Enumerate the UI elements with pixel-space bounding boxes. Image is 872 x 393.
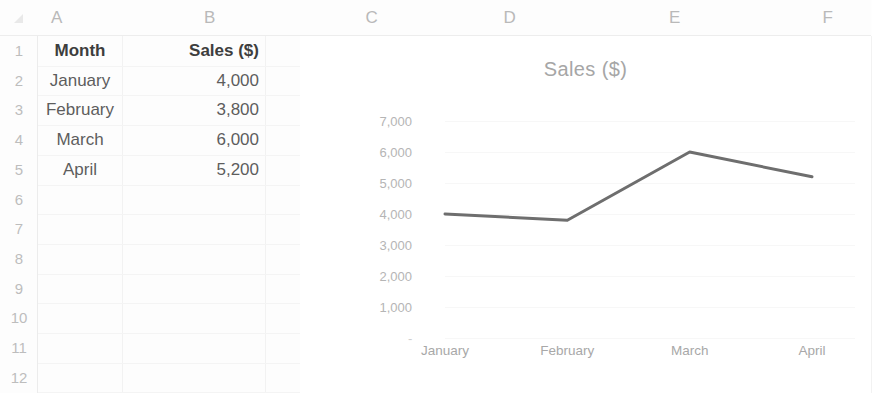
row-header-5[interactable]: 5 <box>0 155 38 185</box>
row-header-6[interactable]: 6 <box>0 185 38 215</box>
cell-b1[interactable]: Sales ($) <box>124 36 265 66</box>
row-header-3[interactable]: 3 <box>0 95 38 125</box>
cell-a3[interactable]: February <box>40 95 120 125</box>
column-header-strip: ABCDEF <box>0 0 871 36</box>
sales-line-chart[interactable]: Sales ($) 7,0006,0005,0004,0003,0002,000… <box>300 36 871 393</box>
sales-series-line <box>445 152 812 220</box>
row-header-11[interactable]: 11 <box>0 333 38 363</box>
column-header-b[interactable]: B <box>204 8 216 28</box>
cell-a2[interactable]: January <box>40 66 120 96</box>
select-all-triangle-icon <box>14 14 23 23</box>
cell-a4[interactable]: March <box>40 125 120 155</box>
column-header-f[interactable]: F <box>823 8 834 28</box>
row-header-12[interactable]: 12 <box>0 363 38 393</box>
cell-a5[interactable]: April <box>40 155 120 185</box>
select-all-corner[interactable] <box>0 0 38 36</box>
column-header-e[interactable]: E <box>669 8 681 28</box>
row-header-1[interactable]: 1 <box>0 36 38 66</box>
row-header-9[interactable]: 9 <box>0 274 38 304</box>
row-header-8[interactable]: 8 <box>0 244 38 274</box>
cell-b2[interactable]: 4,000 <box>124 66 265 96</box>
column-header-c[interactable]: C <box>366 8 379 28</box>
cell-b4[interactable]: 6,000 <box>124 125 265 155</box>
row-header-4[interactable]: 4 <box>0 125 38 155</box>
chart-plot-area <box>300 36 871 393</box>
row-header-10[interactable]: 10 <box>0 303 38 333</box>
row-header-7[interactable]: 7 <box>0 214 38 244</box>
cell-b3[interactable]: 3,800 <box>124 95 265 125</box>
column-header-d[interactable]: D <box>504 8 517 28</box>
cell-a1[interactable]: Month <box>40 36 120 66</box>
row-header-2[interactable]: 2 <box>0 66 38 96</box>
column-header-a[interactable]: A <box>51 8 63 28</box>
cell-b5[interactable]: 5,200 <box>124 155 265 185</box>
